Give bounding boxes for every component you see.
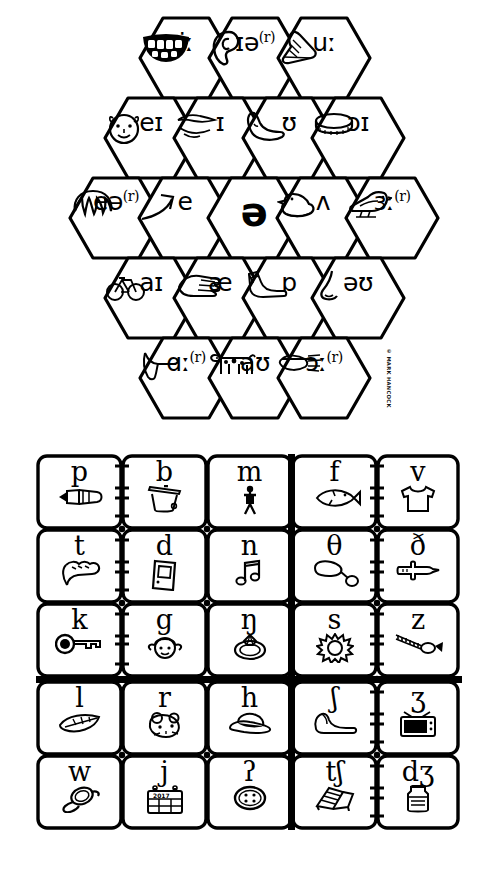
consonant-cell-glottal-stop[interactable]: ʔ [208, 758, 291, 811]
sun-icon [316, 633, 354, 663]
consonant-symbol: g [156, 606, 173, 634]
consonant-cell-k[interactable]: k [38, 606, 121, 655]
consonant-cell-ezh[interactable]: ʒ [378, 684, 458, 737]
ring-icon [230, 633, 270, 661]
chair-icon [313, 785, 357, 811]
door-icon [151, 559, 179, 591]
television-icon [398, 711, 438, 737]
pen-icon [53, 485, 107, 509]
consonant-cell-theta[interactable]: θ [293, 532, 376, 587]
consonant-chart: p b m [30, 448, 464, 868]
consonant-symbol: p [71, 458, 88, 486]
consonant-cell-w[interactable]: w [38, 758, 121, 813]
consonant-symbol: v [410, 458, 425, 486]
consonant-symbol: r [158, 684, 171, 712]
consonant-cell-r[interactable]: r [123, 684, 206, 739]
consonant-symbol: m [237, 458, 263, 486]
jam-jar-icon [403, 785, 433, 813]
consonant-symbol: f [330, 458, 340, 486]
vowel-chart: iː ɪə(r) uː eɪ [0, 0, 494, 432]
consonant-cell-t[interactable]: t [38, 532, 121, 587]
consonant-symbol: j [160, 758, 168, 786]
consonant-symbol: dʒ [402, 758, 435, 786]
consonant-symbol: ʃ [331, 684, 338, 712]
consonant-cell-dezh[interactable]: dʒ [378, 758, 458, 813]
consonant-cell-p[interactable]: p [38, 458, 121, 509]
consonant-symbol: ʒ [410, 684, 425, 712]
consonant-cell-g[interactable]: g [123, 606, 206, 661]
toe-icon [58, 559, 102, 587]
consonant-cell-d[interactable]: d [123, 532, 206, 591]
zip-icon [392, 633, 444, 657]
consonant-cell-eng[interactable]: ŋ [208, 606, 291, 661]
button-icon [232, 785, 268, 811]
pointing-hand-icon [395, 559, 441, 583]
consonant-cell-eth[interactable]: ð [378, 532, 458, 583]
consonant-cell-m[interactable]: m [208, 458, 291, 515]
consonant-cell-v[interactable]: v [378, 458, 458, 513]
shoe-icon [310, 711, 360, 735]
consonant-symbol: z [411, 606, 425, 634]
consonant-cell-b[interactable]: b [123, 458, 206, 513]
consonant-symbol: d [156, 532, 173, 560]
consonant-symbol: ŋ [241, 606, 258, 634]
copyright-notice: © MARK HANCOCK [386, 348, 392, 408]
calendar-year-text: 2017 [153, 791, 170, 798]
consonant-symbol: n [241, 532, 258, 560]
consonant-cell-z[interactable]: z [378, 606, 458, 657]
consonant-symbol: h [241, 684, 258, 712]
key-icon [55, 633, 105, 655]
hexagon-outlines [0, 0, 494, 432]
consonant-symbol: w [68, 758, 91, 786]
girl-icon [143, 633, 187, 661]
bin-icon [144, 485, 186, 513]
consonant-symbol: ʔ [242, 758, 256, 786]
consonant-symbol: θ [326, 532, 342, 560]
consonant-cell-n[interactable]: n [208, 532, 291, 587]
thermometer-icon [309, 559, 361, 587]
note-icon [235, 559, 265, 587]
consonant-cell-esh[interactable]: ʃ [293, 684, 376, 735]
consonant-cell-j[interactable]: j 2017 [123, 758, 206, 815]
consonant-symbol: t [74, 532, 85, 560]
consonant-symbol: ð [410, 532, 426, 560]
consonant-cell-s[interactable]: s [293, 606, 376, 663]
leaf-icon [57, 711, 103, 735]
fish-icon [309, 485, 361, 511]
consonant-symbol: s [328, 606, 342, 634]
consonant-cell-l[interactable]: l [38, 684, 121, 735]
consonant-cell-tesh[interactable]: tʃ [293, 758, 376, 811]
consonant-symbol: tʃ [325, 758, 343, 786]
hat-icon [226, 711, 274, 735]
consonant-symbol: k [71, 606, 87, 634]
vest-icon [396, 485, 440, 513]
consonant-symbol: b [156, 458, 173, 486]
consonant-symbol: l [75, 684, 84, 712]
rat-icon [144, 711, 186, 739]
man-icon [240, 485, 260, 515]
calendar-icon: 2017 [145, 785, 185, 815]
consonant-cell-h[interactable]: h [208, 684, 291, 735]
consonant-cell-f[interactable]: f [293, 458, 376, 511]
watch-icon [58, 785, 102, 813]
